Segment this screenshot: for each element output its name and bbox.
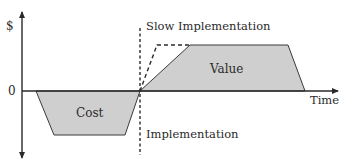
value-label: Value bbox=[210, 63, 243, 75]
implementation-label: Implementation bbox=[146, 129, 239, 141]
x-axis-label: Time bbox=[310, 95, 339, 107]
zero-label: 0 bbox=[8, 85, 16, 97]
cost-label: Cost bbox=[76, 107, 103, 119]
slow-implementation-label: Slow Implementation bbox=[146, 21, 271, 33]
y-axis-label: $ bbox=[6, 20, 14, 32]
